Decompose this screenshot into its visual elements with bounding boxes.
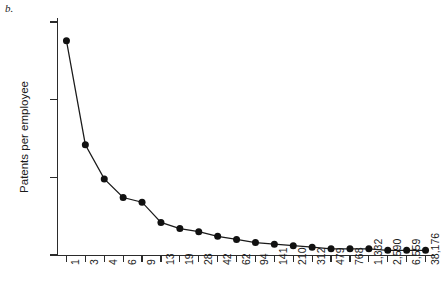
data-point bbox=[271, 241, 278, 248]
data-point bbox=[328, 245, 335, 252]
data-point bbox=[139, 199, 146, 206]
data-point bbox=[290, 242, 297, 249]
data-point bbox=[120, 194, 127, 201]
data-point bbox=[63, 37, 70, 44]
data-point bbox=[214, 233, 221, 240]
data-point bbox=[252, 239, 259, 246]
data-point bbox=[157, 219, 164, 226]
data-point bbox=[384, 247, 391, 254]
data-point bbox=[422, 247, 429, 254]
data-point bbox=[195, 228, 202, 235]
data-point bbox=[346, 245, 353, 252]
data-point bbox=[101, 175, 108, 182]
data-point bbox=[309, 244, 316, 251]
data-point bbox=[233, 236, 240, 243]
data-point bbox=[365, 245, 372, 252]
data-point bbox=[82, 141, 89, 148]
data-point bbox=[176, 225, 183, 232]
data-point bbox=[403, 247, 410, 254]
data-line bbox=[66, 41, 425, 251]
data-marker-group bbox=[63, 37, 429, 254]
